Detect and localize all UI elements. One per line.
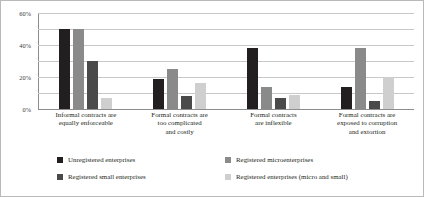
y-tick-label-0pct: 0% bbox=[1, 106, 31, 113]
category-axis-labels: Informal contracts areequally enforceabl… bbox=[39, 111, 414, 136]
legend-label: Registered enterprises (micro and small) bbox=[236, 173, 348, 181]
bar bbox=[355, 48, 366, 109]
bar bbox=[289, 95, 300, 109]
category-label-line: too complicated bbox=[135, 119, 225, 127]
bar bbox=[247, 48, 258, 109]
legend-item: Unregistered enterprises bbox=[57, 156, 225, 164]
category-label: Formal contracts areexposed to corruptio… bbox=[320, 111, 414, 136]
bar bbox=[59, 29, 70, 109]
legend-label: Registered microenterprises bbox=[236, 156, 313, 164]
bar bbox=[101, 98, 112, 109]
bar bbox=[261, 87, 272, 109]
legend-label: Registered small enterprises bbox=[68, 173, 146, 181]
bar bbox=[181, 96, 192, 109]
category-label-line: Formal contracts are bbox=[135, 111, 225, 119]
category-label-line: exposed to corruption bbox=[322, 119, 412, 127]
chart-figure: 0%20%40%60% Informal contracts areequall… bbox=[0, 0, 424, 197]
legend-label: Unregistered enterprises bbox=[68, 156, 135, 164]
bar bbox=[167, 69, 178, 109]
bar-group bbox=[320, 13, 414, 109]
legend-item: Registered microenterprises bbox=[225, 156, 393, 164]
category-label-line: and costly bbox=[135, 128, 225, 136]
legend-swatch-icon bbox=[225, 157, 231, 163]
y-tick-label-40pct: 40% bbox=[1, 42, 31, 49]
category-label: Informal contracts areequally enforceabl… bbox=[39, 111, 133, 136]
bar bbox=[87, 61, 98, 109]
gridline-0 bbox=[38, 109, 414, 110]
legend-swatch-icon bbox=[225, 174, 231, 180]
bar bbox=[341, 87, 352, 109]
bar bbox=[73, 29, 84, 109]
category-label-line: Formal contracts bbox=[229, 111, 319, 119]
bar bbox=[195, 83, 206, 109]
bar-groups bbox=[39, 13, 414, 109]
bar-group bbox=[133, 13, 227, 109]
y-tick-label-60pct: 60% bbox=[1, 10, 31, 17]
bar-group bbox=[227, 13, 321, 109]
category-label-line: are inflexible bbox=[229, 119, 319, 127]
bar bbox=[153, 79, 164, 109]
y-tick-label-20pct: 20% bbox=[1, 74, 31, 81]
bar-group bbox=[39, 13, 133, 109]
legend-swatch-icon bbox=[57, 174, 63, 180]
category-label-line: Informal contracts are bbox=[41, 111, 131, 119]
category-label-line: equally enforceable bbox=[41, 119, 131, 127]
category-label-line: and extortion bbox=[322, 128, 412, 136]
legend-item: Registered enterprises (micro and small) bbox=[225, 173, 393, 181]
category-label: Formal contracts aretoo complicatedand c… bbox=[133, 111, 227, 136]
chart-legend: Unregistered enterprisesRegistered micro… bbox=[57, 151, 387, 185]
legend-item: Registered small enterprises bbox=[57, 173, 225, 181]
bar bbox=[275, 98, 286, 109]
bar bbox=[383, 77, 394, 109]
bar bbox=[369, 101, 380, 109]
category-label-line: Formal contracts are bbox=[322, 111, 412, 119]
legend-swatch-icon bbox=[57, 157, 63, 163]
category-label: Formal contractsare inflexible bbox=[227, 111, 321, 136]
